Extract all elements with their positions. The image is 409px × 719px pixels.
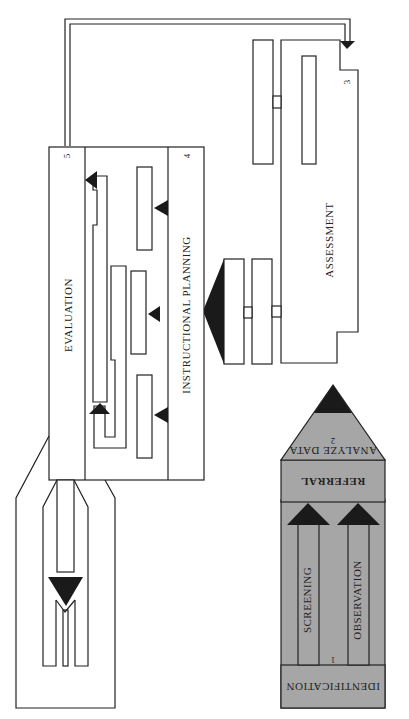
stage-5-number: 5 — [62, 153, 72, 158]
identification-referral-group: IDENTIFICATION 1 SCREENING OBSERVATION R… — [281, 385, 385, 708]
stage-3-number: 3 — [342, 79, 352, 84]
observation-label: OBSERVATION — [351, 560, 363, 640]
assessment-connector-c — [272, 306, 281, 317]
stage-1-number: 1 — [331, 655, 336, 665]
instructional-planning-label: INSTRUCTIONAL PLANNING — [180, 236, 192, 394]
assessment-label: ASSESSMENT — [323, 202, 335, 277]
stage-4-number: 4 — [182, 153, 192, 158]
assessment-outline — [281, 40, 358, 363]
identification-label: IDENTIFICATION — [286, 681, 380, 693]
assessment-group: ASSESSMENT 3 — [203, 40, 358, 364]
assessment-connector-a — [273, 96, 281, 108]
planning-block-1 — [137, 167, 152, 250]
pencil-center-stem — [63, 610, 68, 666]
assessment-block-b — [224, 259, 244, 364]
planning-evaluation-group: EVALUATION 5 INSTRUCTIONAL PLANNING 4 — [49, 147, 204, 480]
assessment-inner-slot — [302, 56, 316, 164]
analyze-data-label: ANALYZE DATA — [289, 445, 377, 457]
tip-arrowhead-icon — [314, 385, 352, 413]
special-education-process-diagram: IDENTIFICATION 1 SCREENING OBSERVATION R… — [0, 0, 409, 719]
assessment-connector-b — [244, 307, 252, 318]
assessment-to-planning-arrowhead-icon — [203, 259, 224, 364]
feedback-arrowhead-icon — [340, 41, 355, 49]
planning-block-3 — [137, 375, 152, 458]
stage-2-number: 2 — [331, 436, 336, 446]
pencil-center-shaft — [57, 480, 74, 572]
pencil-arrowhead-icon — [48, 577, 83, 606]
evaluation-label: EVALUATION — [62, 278, 74, 352]
assessment-block-a — [253, 40, 273, 164]
planning-block-2 — [131, 271, 146, 354]
referral-label: REFERRAL — [301, 476, 366, 488]
assessment-block-c — [252, 259, 272, 364]
screening-label: SCREENING — [301, 567, 313, 633]
